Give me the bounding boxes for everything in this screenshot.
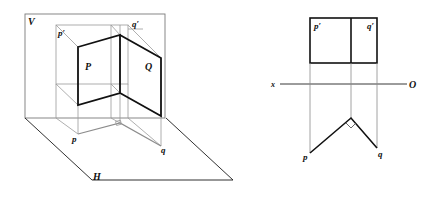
label-h: H	[92, 171, 102, 182]
h-plane	[25, 118, 233, 180]
label-p-ortho: p	[302, 152, 308, 162]
projector-line	[111, 84, 120, 93]
v-plane	[25, 14, 165, 118]
projection-diagram: V H P Q p′ q′ p q p′ q′ x O p q	[0, 0, 432, 197]
label-p: p	[71, 134, 77, 144]
label-q-plane: Q	[145, 61, 152, 72]
label-o: O	[409, 79, 416, 90]
plane-q	[120, 35, 161, 116]
projector-line	[56, 84, 78, 105]
top-view-pq	[310, 118, 377, 153]
projector-line	[128, 118, 161, 146]
label-v: V	[28, 16, 36, 27]
orthographic-view: p′ q′ x O p q	[270, 18, 416, 162]
label-q-prime-ortho: q′	[367, 21, 375, 31]
h-projection-pq	[78, 123, 161, 146]
label-p-prime: p′	[57, 28, 66, 38]
label-q: q	[161, 145, 166, 155]
label-q-ortho: q	[378, 149, 383, 159]
label-q-prime: q′	[132, 19, 140, 29]
label-p-prime-ortho: p′	[313, 21, 322, 31]
right-angle-marker	[346, 123, 356, 128]
projector-line	[111, 25, 120, 35]
projector-line	[56, 118, 78, 134]
axonometric-view: V H P Q p′ q′ p q	[25, 14, 233, 182]
v-projection-box	[56, 25, 128, 84]
label-x: x	[270, 80, 275, 89]
label-p-plane: P	[85, 61, 92, 72]
